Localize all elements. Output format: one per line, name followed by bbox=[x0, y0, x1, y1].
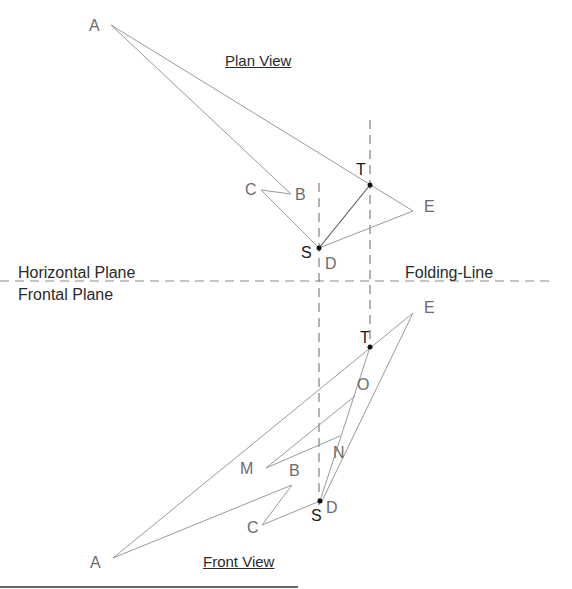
front-label-c: C bbox=[247, 520, 259, 536]
plan-view-title: Plan View bbox=[225, 53, 291, 68]
front-label-o: O bbox=[357, 377, 369, 393]
front-label-b: B bbox=[289, 463, 300, 479]
plan-label-a: A bbox=[89, 18, 100, 34]
plan-label-b: B bbox=[295, 187, 306, 203]
front-label-t: T bbox=[360, 330, 370, 346]
frontal-plane-label: Frontal Plane bbox=[18, 287, 113, 303]
folding-line-label: Folding-Line bbox=[405, 265, 493, 281]
front-label-m: M bbox=[240, 461, 253, 477]
plan-point-t-marker bbox=[368, 183, 373, 188]
front-point-s-marker bbox=[318, 499, 323, 504]
front-label-a: A bbox=[90, 555, 101, 571]
front-view-shape bbox=[113, 313, 413, 558]
plan-line-st bbox=[319, 185, 370, 248]
plan-label-e: E bbox=[424, 199, 435, 215]
front-label-e: E bbox=[424, 300, 435, 316]
plan-point-s-marker bbox=[317, 246, 322, 251]
front-view-title: Front View bbox=[203, 554, 274, 569]
horizontal-plane-label: Horizontal Plane bbox=[18, 265, 135, 281]
front-label-d: D bbox=[326, 500, 338, 516]
plan-label-t: T bbox=[356, 162, 366, 178]
plan-label-s: S bbox=[301, 245, 312, 261]
plan-label-d: D bbox=[325, 256, 337, 272]
front-label-n: N bbox=[333, 445, 345, 461]
plan-label-c: C bbox=[245, 182, 257, 198]
front-label-s: S bbox=[311, 508, 322, 524]
